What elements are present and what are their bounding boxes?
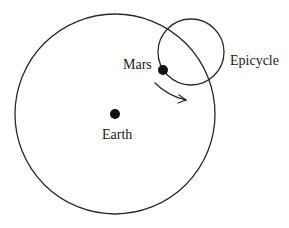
epicycle-circle (158, 19, 224, 85)
mars-dot (158, 65, 168, 75)
mars-label: Mars (123, 57, 152, 72)
epicycle-diagram: Mars Epicycle Earth (0, 0, 289, 228)
earth-label: Earth (102, 127, 132, 142)
earth-dot (110, 109, 120, 119)
motion-arrow-icon (155, 83, 186, 103)
epicycle-label: Epicycle (230, 53, 279, 68)
